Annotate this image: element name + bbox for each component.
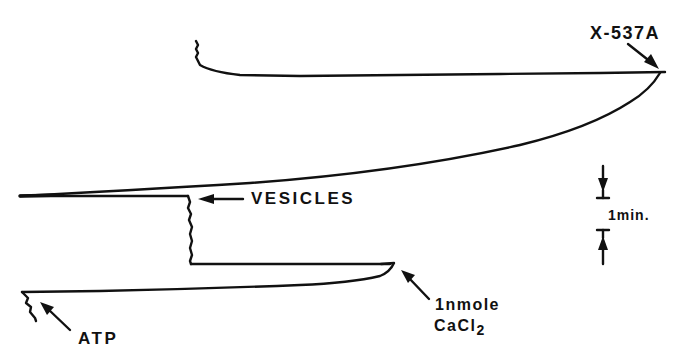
x537a-arrowhead-icon [644, 54, 659, 69]
vesicles-label: VESICLES [251, 190, 355, 207]
atp-arrow [48, 309, 70, 330]
top-trace [196, 41, 665, 76]
x537a-label: X-537A [590, 24, 660, 42]
time-scale-label: 1min. [608, 208, 650, 222]
atp-deflection-trace [22, 292, 36, 321]
tip-thickening [20, 195, 62, 196]
vesicles-arrowhead-icon [198, 194, 214, 204]
uptake-curve-trace [20, 73, 660, 196]
calcium-compound-text: CaCl [434, 317, 476, 334]
cacl2-hook-trace [22, 263, 394, 292]
calcium-subscript: 2 [476, 322, 485, 338]
calcium-compound-label: CaCl2 [434, 318, 486, 334]
vesicles-step-trace [188, 196, 192, 264]
calcium-amount-label: 1nmole [435, 297, 500, 313]
recorder-trace-figure [0, 0, 695, 362]
cacl2-arrow [408, 277, 429, 299]
atp-label: ATP [78, 330, 118, 347]
